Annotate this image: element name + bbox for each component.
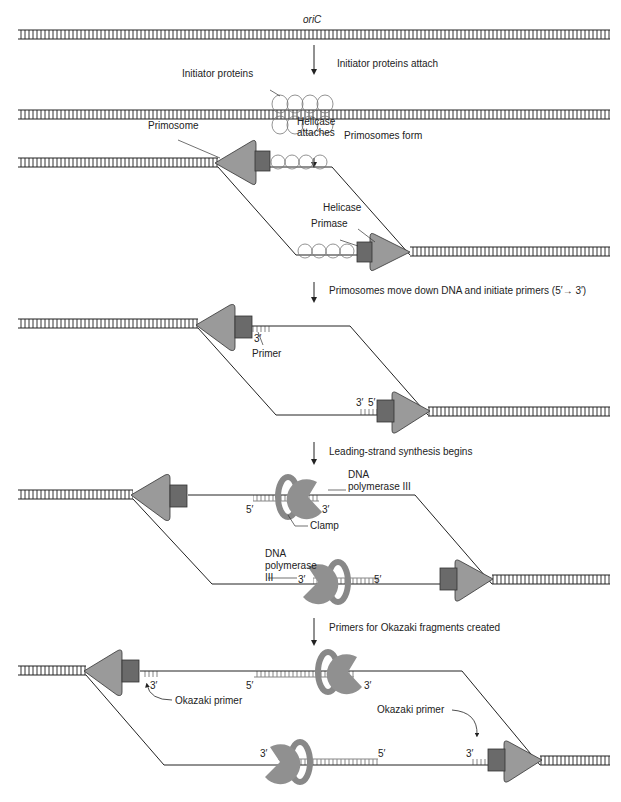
five-prime-label: 5′: [374, 574, 381, 585]
okazaki-primer-label: Okazaki primer: [175, 695, 242, 706]
primosome-label: Primosome: [148, 120, 199, 131]
primase-right: [357, 242, 372, 262]
five-prime-label: 5′: [246, 504, 253, 515]
initiator-proteins-label: Initiator proteins: [182, 68, 253, 79]
step-label-2: Primosomes form: [344, 130, 422, 141]
five-prime-label: 5′: [378, 748, 385, 759]
three-prime-label: 3′: [466, 748, 473, 759]
step-label-1: Initiator proteins attach: [337, 58, 438, 69]
step-label-3: Primosomes move down DNA and initiate pr…: [329, 285, 586, 296]
dna-pol-label: DNA: [348, 469, 369, 480]
helicase-attaches-label-2: attaches: [297, 127, 335, 138]
step-label-5: Primers for Okazaki fragments created: [329, 622, 500, 633]
clamp-label: Clamp: [310, 520, 339, 531]
three-prime-label: 3′: [150, 680, 157, 691]
primer-label: Primer: [252, 348, 281, 359]
helicase-attaches-label-1: Helicase: [297, 116, 335, 127]
dsdna-stage1: [18, 30, 610, 39]
three-prime-label: 3′: [356, 397, 363, 408]
three-prime-label: 3′: [364, 680, 371, 691]
helicase-label: Helicase: [323, 202, 361, 213]
three-prime-label: 3′: [322, 504, 329, 515]
oric-label: oriC: [303, 14, 321, 25]
three-prime-label: 3′: [298, 574, 305, 585]
primosome-left: [196, 304, 235, 350]
primase-label: Primase: [311, 218, 348, 229]
replication-bubble-stage4: [18, 319, 610, 416]
replication-bubble-stage3: [18, 158, 610, 256]
dna-pol-label: polymerase III: [348, 481, 411, 492]
primosome-right: [370, 233, 410, 270]
three-prime-label: 3′: [254, 333, 261, 344]
step-label-4: Leading-strand synthesis begins: [329, 446, 472, 457]
five-prime-label: 5′: [246, 680, 253, 691]
three-prime-label: 3′: [260, 748, 267, 759]
dna-pol-label: III: [265, 572, 273, 583]
dna-pol-label: DNA: [265, 548, 286, 559]
primosome-left: [215, 140, 256, 184]
five-prime-label: 5′: [368, 397, 375, 408]
primase-left: [255, 151, 270, 171]
primosome-right: [392, 392, 430, 433]
dna-pol-label: polymerase: [265, 560, 317, 571]
okazaki-primer-label: Okazaki primer: [377, 704, 444, 715]
